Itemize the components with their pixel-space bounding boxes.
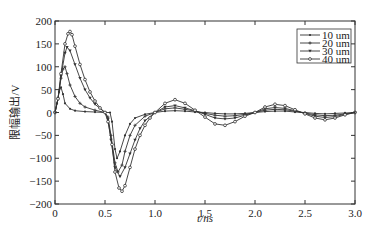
y-tick-label: 0 xyxy=(47,107,53,119)
x-axis-label: t/ns xyxy=(197,212,213,224)
legend-label: 40 um xyxy=(322,53,350,65)
y-tick-label: −150 xyxy=(29,175,52,187)
y-axis-label: 限幅输出/V xyxy=(8,84,21,139)
y-tick-label: 100 xyxy=(36,61,53,73)
y-tick-label: 150 xyxy=(36,38,53,50)
x-tick-label: 3.0 xyxy=(348,207,362,219)
y-tick-label: −50 xyxy=(35,129,53,141)
series-20-um xyxy=(53,65,356,173)
y-tick-label: 200 xyxy=(36,15,53,27)
series-10-um xyxy=(54,86,356,159)
line-chart: 00.51.01.52.02.53.0200150100500−50−100−1… xyxy=(0,0,380,239)
x-tick-label: 2.5 xyxy=(298,207,312,219)
y-tick-label: 50 xyxy=(41,84,53,96)
legend: 10 um20 um30 um40 um xyxy=(297,29,351,65)
y-tick-label: −200 xyxy=(29,198,52,210)
x-tick-label: 0 xyxy=(52,207,58,219)
y-tick-label: −100 xyxy=(29,152,52,164)
x-tick-label: 0.5 xyxy=(98,207,112,219)
x-tick-label: 1.0 xyxy=(148,207,162,219)
x-tick-label: 2.0 xyxy=(248,207,262,219)
